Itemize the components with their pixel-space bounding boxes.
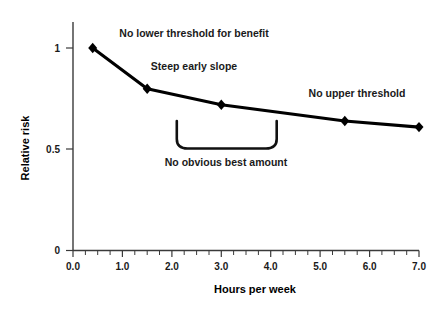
x-tick-label-3: 3.0 [214,261,228,272]
y-axis-title: Relative risk [19,115,31,181]
x-axis-title: Hours per week [214,283,297,295]
x-tick-label-7: 7.0 [412,261,426,272]
y-tick-label-1: 1 [54,43,60,54]
annotation-no-lower-threshold: No lower threshold for benefit [119,27,269,39]
x-tick-label-6: 6.0 [363,261,377,272]
x-tick-label-2: 2.0 [165,261,179,272]
y-tick-label-0: 0 [54,245,60,256]
relative-risk-line-chart: 0 0.5 1 [0,0,438,309]
x-tick-label-0: 0.0 [66,261,80,272]
annotation-no-obvious-best-amount: No obvious best amount [165,156,288,168]
chart-figure: 0 0.5 1 [0,0,438,309]
x-tick-label-1: 1.0 [115,261,129,272]
x-tick-label-4: 4.0 [264,261,278,272]
annotation-no-upper-threshold: No upper threshold [309,87,406,99]
x-tick-label-5: 5.0 [313,261,327,272]
y-tick-label-0-5: 0.5 [46,144,60,155]
annotation-steep-early-slope: Steep early slope [151,60,238,72]
